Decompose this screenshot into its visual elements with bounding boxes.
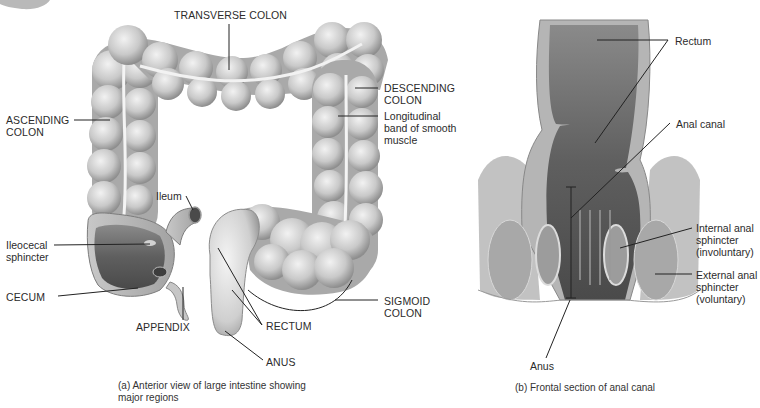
anal-canal-illustration [478, 20, 700, 302]
label-ileocecal-sphincter: Ileocecal sphincter [6, 239, 49, 263]
caption-figure-b: (b) Frontal section of anal canal [515, 382, 655, 394]
label-sigmoid-colon: SIGMOID COLON [384, 295, 430, 319]
label-longitudinal-band: Longitudinal band of smooth muscle [384, 110, 456, 146]
internal-sphincter-left [536, 225, 560, 285]
label-cecum: CECUM [6, 291, 45, 303]
anatomy-illustrations [0, 0, 760, 408]
external-sphincter-right [634, 220, 678, 300]
label-internal-anal-sphincter: Internal anal sphincter (involuntary) [696, 222, 754, 258]
label-transverse-colon: TRANSVERSE COLON [174, 9, 287, 21]
label-descending-colon: DESCENDING COLON [384, 82, 455, 106]
diagram-canvas: TRANSVERSE COLON DESCENDING COLON Longit… [0, 0, 760, 408]
label-ileum: Ileum [156, 190, 182, 202]
corner-fragment [0, 0, 50, 9]
label-external-anal-sphincter: External anal sphincter (voluntary) [696, 269, 757, 305]
label-ascending-colon: ASCENDING COLON [6, 114, 69, 138]
label-rectum-a: RECTUM [266, 320, 312, 332]
label-anal-canal: Anal canal [676, 118, 725, 130]
label-appendix: APPENDIX [136, 321, 190, 333]
appendix-shape [166, 282, 188, 320]
label-anus-a: ANUS [266, 356, 296, 368]
external-sphincter-left [488, 220, 532, 300]
label-anus-b: Anus [530, 360, 554, 372]
label-rectum-b: Rectum [675, 35, 711, 47]
internal-sphincter-right [604, 225, 628, 285]
cecum-shape [87, 213, 174, 296]
rectum-shape [209, 209, 259, 335]
caption-figure-a: (a) Anterior view of large intestine sho… [118, 380, 306, 404]
